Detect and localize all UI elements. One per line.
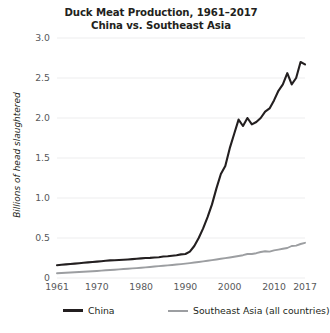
- legend-swatch-icon-southeast-asia: [168, 310, 188, 312]
- y-tick-label: 2.0: [16, 113, 50, 123]
- y-tick-label: 0.5: [16, 233, 50, 243]
- x-tick-label: 1980: [118, 282, 164, 292]
- legend-label-china: China: [88, 305, 115, 316]
- x-tick-label: 2017: [282, 282, 328, 292]
- x-tick-label: 1990: [162, 282, 208, 292]
- legend-swatch-icon-china: [63, 309, 83, 311]
- chart-legend: China Southeast Asia (all countries): [0, 303, 322, 323]
- series-line-southeast-asia: [57, 243, 305, 273]
- legend-item-southeast-asia: Southeast Asia (all countries): [168, 305, 330, 316]
- x-tick-label: 2000: [207, 282, 253, 292]
- x-tick-label: 1970: [74, 282, 120, 292]
- y-tick-label: 1.0: [16, 193, 50, 203]
- legend-label-southeast-asia: Southeast Asia (all countries): [193, 305, 330, 316]
- legend-item-china: China: [63, 305, 115, 316]
- series-line-china: [57, 62, 305, 265]
- y-tick-label: 3.0: [16, 33, 50, 43]
- gridlines: [57, 38, 305, 278]
- y-tick-label: 1.5: [16, 153, 50, 163]
- y-tick-label: 2.5: [16, 73, 50, 83]
